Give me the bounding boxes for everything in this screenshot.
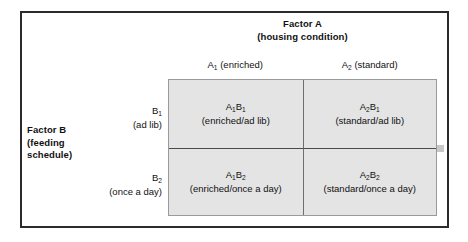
matrix-cell-a2b1-description: (standard/ad lib) <box>335 114 404 127</box>
row-header-b1-subscript: 1 <box>158 110 162 117</box>
matrix-cell-a1b2-sub-b: 2 <box>242 174 246 181</box>
column-header-a1-code: A <box>208 59 214 70</box>
row-header-b1-label: (ad lib) <box>58 118 162 131</box>
row-header-b1: B1 (ad lib) <box>58 104 162 131</box>
column-header-a1: A1 (enriched) <box>168 58 303 74</box>
factor-a-subtitle: (housing condition) <box>168 31 437 44</box>
column-header-a1-label: (enriched) <box>220 59 263 70</box>
row-header-b2-code-line: B2 <box>58 171 162 185</box>
matrix-cell-a2b1-sub-a: 2 <box>366 106 370 113</box>
figure-canvas: Factor A (housing condition) A1 (enriche… <box>0 0 468 242</box>
scan-artifact-marker <box>437 145 444 152</box>
matrix-cell-a1b1-sub-a: 1 <box>232 106 236 113</box>
row-header-b2-label: (once a day) <box>58 185 162 198</box>
row-header-b2-subscript: 2 <box>158 177 162 184</box>
column-header-a2-label: (standard) <box>354 59 397 70</box>
matrix-cell-a1b2-code: A1B2 <box>226 168 246 182</box>
factor-a-title: Factor A <box>168 18 437 31</box>
column-header-a1-subscript: 1 <box>214 64 218 71</box>
row-header-b2: B2 (once a day) <box>58 171 162 198</box>
matrix-cell-a2b2-sub-a: 2 <box>366 174 370 181</box>
factorial-design-matrix: A1B1 (enriched/ad lib) A2B1 (standard/ad… <box>168 79 437 216</box>
matrix-cell-a1b2-description: (enriched/once a day) <box>190 182 282 195</box>
matrix-cell-a2b1: A2B1 (standard/ad lib) <box>303 80 437 148</box>
matrix-cell-a2b1-code: A2B1 <box>360 100 380 114</box>
matrix-cell-a1b1-sub-b: 1 <box>242 106 246 113</box>
matrix-cell-a2b2-description: (standard/once a day) <box>324 182 416 195</box>
matrix-cell-a1b1: A1B1 (enriched/ad lib) <box>169 80 303 148</box>
matrix-cell-a1b1-description: (enriched/ad lib) <box>202 114 270 127</box>
matrix-cell-a1b2-sub-a: 1 <box>232 174 236 181</box>
matrix-cell-a2b2-code: A2B2 <box>360 168 380 182</box>
matrix-cell-a2b2-sub-b: 2 <box>376 174 380 181</box>
matrix-cell-a2b2: A2B2 (standard/once a day) <box>303 148 437 216</box>
column-header-a2-subscript: 2 <box>348 64 352 71</box>
factor-b-subtitle-line1: (feeding <box>27 137 137 150</box>
matrix-cell-a2b1-sub-b: 1 <box>376 106 380 113</box>
matrix-cell-a1b1-code: A1B1 <box>226 100 246 114</box>
factor-b-subtitle-line2: schedule) <box>27 149 137 162</box>
column-headers: A1 (enriched) A2 (standard) <box>168 58 437 74</box>
matrix-cell-a1b2: A1B2 (enriched/once a day) <box>169 148 303 216</box>
factor-a-heading: Factor A (housing condition) <box>168 18 437 43</box>
column-header-a2: A2 (standard) <box>303 58 438 74</box>
row-header-b1-code-line: B1 <box>58 104 162 118</box>
